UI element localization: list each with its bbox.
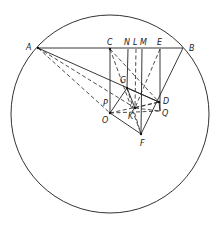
label-G: G — [120, 76, 126, 85]
point-K — [134, 107, 136, 109]
label-N: N — [124, 38, 130, 47]
point-O — [109, 112, 111, 114]
label-A: A — [25, 43, 31, 52]
dashed-segment-LK — [135, 49, 136, 108]
point-F — [140, 133, 142, 135]
dashed-segment-KQ — [135, 108, 160, 111]
label-C: C — [107, 38, 113, 47]
solid-segment-BF — [141, 48, 183, 134]
label-L: L — [133, 38, 137, 47]
label-Q: Q — [162, 109, 168, 118]
geometry-figure: ABCNLMEGDPOKQF — [0, 0, 219, 229]
point-D — [158, 101, 160, 103]
dashed-segment-CD — [110, 49, 159, 102]
point-C — [109, 48, 111, 50]
dashed-segment-AO — [38, 48, 110, 113]
solid-segments — [38, 48, 183, 134]
solid-segment-OF — [110, 113, 141, 134]
label-B: B — [189, 44, 195, 53]
label-F: F — [140, 139, 145, 148]
label-D: D — [163, 97, 169, 106]
label-P: P — [103, 99, 108, 108]
label-O: O — [102, 116, 108, 125]
solid-segment-GO — [110, 88, 127, 113]
label-E: E — [157, 38, 163, 47]
point-A — [37, 47, 39, 49]
point-G — [126, 87, 128, 89]
label-K: K — [128, 112, 134, 121]
label-M: M — [140, 38, 147, 47]
dashed-segment-GF — [127, 88, 141, 134]
